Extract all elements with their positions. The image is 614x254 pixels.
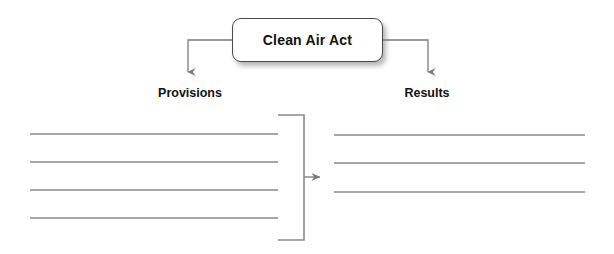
connector-to-results — [383, 40, 428, 72]
central-node-clean-air-act: Clean Air Act — [232, 18, 383, 62]
grouping-bracket — [278, 115, 304, 240]
branch-label-results: Results — [404, 86, 449, 100]
connector-to-provisions — [188, 40, 232, 72]
diagram-canvas: Clean Air Act Provisions Results — [0, 0, 614, 254]
central-node-label: Clean Air Act — [263, 32, 352, 48]
branch-label-provisions: Provisions — [158, 86, 222, 100]
